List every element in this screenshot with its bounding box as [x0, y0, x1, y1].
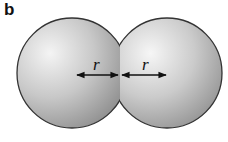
- spheres-diagram: r r: [0, 0, 228, 142]
- left-radius-label: r: [93, 55, 100, 74]
- right-sphere: [112, 18, 222, 128]
- right-radius-label: r: [142, 55, 149, 74]
- left-sphere: [17, 18, 127, 128]
